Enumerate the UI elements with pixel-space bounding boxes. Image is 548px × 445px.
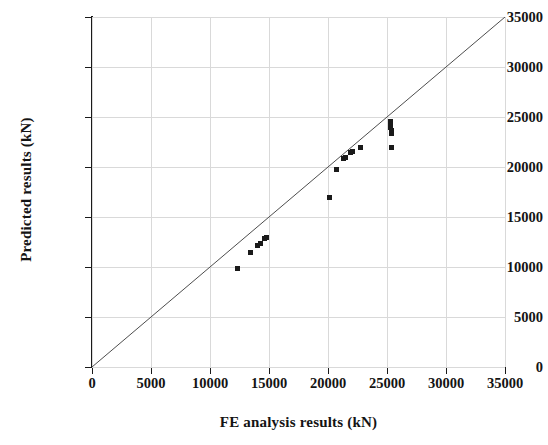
gridline-vertical — [92, 17, 93, 367]
data-point-marker — [358, 145, 363, 150]
gridline-horizontal — [92, 267, 505, 268]
x-axis-tick — [387, 367, 388, 374]
plot-area — [92, 17, 505, 367]
data-point-marker — [264, 235, 269, 240]
gridline-vertical — [328, 17, 329, 367]
gridline-horizontal — [92, 167, 505, 168]
data-point-marker — [343, 155, 348, 160]
data-point-marker — [389, 131, 394, 136]
x-axis-tick — [151, 367, 152, 374]
gridline-horizontal — [92, 67, 505, 68]
x-axis-tick — [505, 367, 506, 374]
gridline-vertical — [446, 17, 447, 367]
gridline-vertical — [210, 17, 211, 367]
data-point-marker — [334, 167, 339, 172]
x-axis-label: FE analysis results (kN) — [92, 414, 505, 431]
gridline-vertical — [269, 17, 270, 367]
identity-reference-line — [92, 17, 505, 367]
gridline-horizontal — [92, 217, 505, 218]
y-axis-label: Predicted results (kN) — [18, 80, 35, 300]
gridline-vertical — [387, 17, 388, 367]
gridline-vertical — [505, 17, 506, 367]
gridline-horizontal — [92, 117, 505, 118]
data-point-marker — [235, 266, 240, 271]
x-axis-tick — [92, 367, 93, 374]
gridline-vertical — [151, 17, 152, 367]
x-tick-label: 35000 — [460, 376, 548, 391]
gridline-horizontal — [92, 17, 505, 18]
data-point-marker — [258, 241, 263, 246]
x-axis-tick — [269, 367, 270, 374]
x-axis-tick — [446, 367, 447, 374]
x-axis-tick — [328, 367, 329, 374]
x-axis-tick — [210, 367, 211, 374]
gridline-horizontal — [92, 367, 505, 368]
data-point-marker — [389, 145, 394, 150]
data-point-marker — [248, 250, 253, 255]
gridline-horizontal — [92, 317, 505, 318]
data-point-marker — [327, 195, 332, 200]
data-point-marker — [350, 149, 355, 154]
